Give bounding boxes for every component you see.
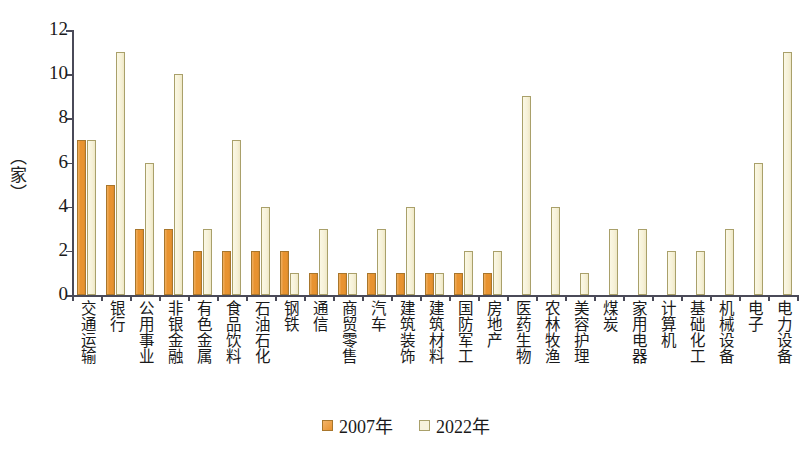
bar (251, 251, 261, 295)
bar (377, 229, 387, 295)
x-axis-label: 煤炭 (601, 300, 617, 332)
x-axis-tick-mark (72, 295, 74, 301)
bar (367, 273, 377, 295)
bar (522, 96, 532, 295)
bar (261, 207, 271, 295)
x-axis-label: 交通运输 (79, 300, 95, 364)
y-axis-tick-label: 2 (59, 240, 69, 259)
x-axis-label: 电力设备 (775, 300, 791, 364)
bar (290, 273, 300, 295)
bar (454, 273, 464, 295)
bar (348, 273, 358, 295)
bar (338, 273, 348, 295)
x-axis-label: 钢铁 (282, 300, 298, 332)
x-axis-tick-mark (304, 295, 306, 301)
bar (174, 74, 184, 295)
x-axis-label: 农林牧渔 (543, 300, 559, 364)
x-axis-label: 商贸零售 (340, 300, 356, 364)
bar-chart: （家） 024681012 交通运输银行公用事业非银金融有色金属食品饮料石油石化… (0, 0, 812, 449)
legend-item[interactable]: 2007年 (322, 412, 393, 438)
x-axis-label: 机械设备 (717, 300, 733, 364)
x-axis-tick-mark (449, 295, 451, 301)
x-axis-tick-mark (188, 295, 190, 301)
bar (551, 207, 561, 295)
bar (754, 163, 764, 296)
legend-item[interactable]: 2022年 (419, 412, 490, 438)
x-axis-label: 汽车 (369, 300, 385, 332)
x-axis-tick-mark (275, 295, 277, 301)
x-axis-tick-mark (565, 295, 567, 301)
x-axis-label: 公用事业 (137, 300, 153, 364)
x-axis-label: 建筑装饰 (398, 300, 414, 364)
x-axis-label: 石油石化 (253, 300, 269, 364)
x-axis-tick-mark (768, 295, 770, 301)
y-axis-tick-label: 12 (49, 19, 68, 38)
x-axis-label: 电子 (746, 300, 762, 332)
x-axis-tick-mark (420, 295, 422, 301)
x-axis-label: 非银金融 (166, 300, 182, 364)
bar (116, 52, 126, 295)
bar (87, 140, 97, 295)
x-axis-tick-mark (507, 295, 509, 301)
bar (222, 251, 232, 295)
bar (425, 273, 435, 295)
y-axis-tick-label: 6 (59, 152, 69, 171)
bar (725, 229, 735, 295)
bar (783, 52, 793, 295)
x-axis-label: 有色金属 (195, 300, 211, 364)
bar (483, 273, 493, 295)
x-axis-label: 家用电器 (630, 300, 646, 364)
x-axis-label: 房地产 (485, 300, 501, 348)
chart-legend: 2007年2022年 (0, 412, 812, 438)
x-axis-tick-mark (159, 295, 161, 301)
x-axis-tick-mark (478, 295, 480, 301)
x-axis-label: 银行 (108, 300, 124, 332)
bar (667, 251, 677, 295)
legend-label: 2007年 (339, 412, 393, 438)
bar (77, 140, 87, 295)
y-axis-tick-label: 0 (59, 284, 69, 303)
bar (135, 229, 145, 295)
x-axis-label: 通信 (311, 300, 327, 332)
bar (309, 273, 319, 295)
bar (396, 273, 406, 295)
y-axis-tick-label: 10 (49, 63, 68, 82)
bar (493, 251, 503, 295)
bar (145, 163, 155, 296)
bar (164, 229, 174, 295)
x-axis-tick-mark (217, 295, 219, 301)
x-axis-label: 食品饮料 (224, 300, 240, 364)
bar (193, 251, 203, 295)
x-axis-label: 基础化工 (688, 300, 704, 364)
bar (232, 140, 242, 295)
y-axis-line (72, 30, 74, 295)
x-axis-label: 国防军工 (456, 300, 472, 364)
bar (319, 229, 329, 295)
x-axis-tick-mark (797, 295, 799, 301)
bar (106, 185, 116, 295)
plot-area: 024681012 (72, 30, 797, 295)
x-axis-line (72, 295, 797, 297)
x-axis-tick-mark (536, 295, 538, 301)
legend-swatch-icon (322, 420, 333, 431)
x-axis-tick-mark (391, 295, 393, 301)
bar (696, 251, 706, 295)
x-axis-label: 建筑材料 (427, 300, 443, 364)
bar (435, 273, 445, 295)
y-axis-title: （家） (2, 110, 32, 240)
legend-label: 2022年 (436, 412, 490, 438)
x-axis-tick-mark (362, 295, 364, 301)
x-axis-tick-mark (333, 295, 335, 301)
x-axis-tick-mark (681, 295, 683, 301)
bar (280, 251, 290, 295)
x-axis-tick-mark (739, 295, 741, 301)
x-axis-tick-mark (246, 295, 248, 301)
x-axis-label: 计算机 (659, 300, 675, 348)
x-axis-tick-mark (594, 295, 596, 301)
x-axis-tick-mark (652, 295, 654, 301)
bar (638, 229, 648, 295)
bar (580, 273, 590, 295)
bar (203, 229, 213, 295)
x-axis-label: 医药生物 (514, 300, 530, 364)
y-axis-tick-label: 8 (59, 107, 69, 126)
